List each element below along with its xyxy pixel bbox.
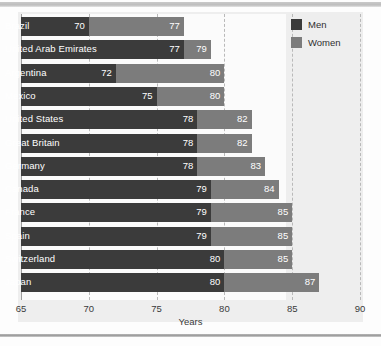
category-label: Argentina: [5, 67, 47, 78]
x-tick-label: 65: [16, 303, 27, 314]
chart-figure: Brazil7077United Arab Emirates7779Argent…: [0, 0, 381, 346]
bar-row: Japan8087: [0, 273, 381, 292]
value-label-men: 80: [210, 253, 221, 264]
legend-swatch-women: [291, 37, 302, 48]
bar-men: [21, 180, 211, 199]
category-label: Great Britain: [5, 137, 60, 148]
category-label: France: [5, 206, 35, 217]
value-label-women: 82: [237, 137, 248, 148]
bar-men: [21, 203, 211, 222]
bar-row: Spain7985: [0, 227, 381, 246]
bar-men: [21, 273, 224, 292]
value-label-women: 80: [210, 67, 221, 78]
legend-item-women: Women: [291, 35, 341, 50]
value-label-women: 82: [237, 113, 248, 124]
bar-row: Argentina7280: [0, 64, 381, 83]
category-label: Brazil: [5, 20, 29, 31]
value-label-women: 85: [278, 206, 289, 217]
x-tick-label: 90: [355, 303, 366, 314]
legend-label-women: Women: [308, 37, 341, 48]
value-label-men: 72: [101, 67, 112, 78]
category-label: Japan: [5, 276, 31, 287]
value-label-men: 70: [74, 20, 85, 31]
chart-legend: Men Women: [291, 17, 341, 53]
legend-item-men: Men: [291, 17, 341, 32]
bar-row: United States7882: [0, 110, 381, 129]
category-label: Canada: [5, 183, 39, 194]
bar-men: [21, 87, 157, 106]
category-label: United States: [5, 113, 63, 124]
legend-label-men: Men: [308, 19, 326, 30]
value-label-men: 79: [196, 206, 207, 217]
value-label-men: 78: [183, 160, 194, 171]
bar-row: Mexico7580: [0, 87, 381, 106]
x-tick-label: 75: [151, 303, 162, 314]
value-label-men: 75: [142, 90, 153, 101]
category-label: Germany: [5, 160, 45, 171]
value-label-women: 77: [169, 20, 180, 31]
bar-men: [21, 227, 211, 246]
category-label: Switzerland: [5, 253, 55, 264]
value-label-women: 83: [251, 160, 262, 171]
value-label-men: 77: [169, 43, 180, 54]
bar-row: France7985: [0, 203, 381, 222]
x-tick-label: 70: [84, 303, 95, 314]
value-label-women: 84: [264, 183, 275, 194]
bar-row: Switzerland8085: [0, 250, 381, 269]
value-label-men: 78: [183, 137, 194, 148]
value-label-women: 85: [278, 230, 289, 241]
bar-row: Canada7984: [0, 180, 381, 199]
value-label-men: 79: [196, 230, 207, 241]
value-label-men: 79: [196, 183, 207, 194]
value-label-men: 78: [183, 113, 194, 124]
legend-swatch-men: [291, 19, 302, 30]
category-label: Mexico: [5, 90, 36, 101]
x-tick-label: 85: [287, 303, 298, 314]
value-label-women: 79: [196, 43, 207, 54]
bar-row: Great Britain7882: [0, 134, 381, 153]
category-label: United Arab Emirates: [5, 43, 97, 54]
value-label-women: 87: [305, 276, 316, 287]
bar-row: Germany7883: [0, 157, 381, 176]
x-tick-label: 80: [219, 303, 230, 314]
value-label-women: 80: [210, 90, 221, 101]
bar-men: [21, 157, 197, 176]
x-axis-title: Years: [179, 316, 203, 327]
value-label-women: 85: [278, 253, 289, 264]
value-label-men: 80: [210, 276, 221, 287]
category-label: Spain: [5, 230, 30, 241]
